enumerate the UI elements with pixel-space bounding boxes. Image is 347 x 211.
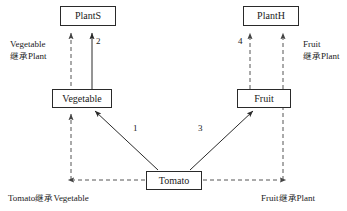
annotation-fruit-bottom-latin2: Plant	[297, 193, 316, 203]
annotation-fruit-right-line2-cjk: 继承	[303, 51, 321, 61]
node-tomato-label: Tomato	[159, 176, 189, 186]
node-fruit-label: Fruit	[254, 94, 273, 104]
annotation-vegetable-line1-text: Vegetable	[10, 39, 45, 49]
annotation-fruit-inherits-plant-bottom: Fruit继承Plant	[261, 192, 315, 204]
node-tomato[interactable]: Tomato	[146, 171, 202, 190]
node-plants[interactable]: PlantS	[60, 6, 116, 26]
annotation-tomato-latin2: Vegetable	[53, 193, 88, 203]
node-planth[interactable]: PlantH	[243, 6, 299, 26]
edge-label-2: 2	[96, 36, 101, 46]
edge-label-1: 1	[133, 123, 138, 133]
edge-label-4: 4	[238, 36, 243, 46]
annotation-vegetable-inherits-plant: Vegetable 继承Plant	[10, 38, 47, 63]
edge-tomato-to-vegetable	[95, 111, 158, 170]
annotation-fruit-bottom-latin1: Fruit	[261, 193, 279, 203]
annotation-tomato-cjk: 继承	[35, 193, 53, 203]
node-vegetable-label: Vegetable	[62, 94, 101, 104]
annotation-fruit-bottom-cjk: 继承	[279, 193, 297, 203]
uml-inheritance-diagram: PlantS PlantH Vegetable Fruit Tomato 1 2…	[0, 0, 347, 211]
edge-tomato-to-fruit	[190, 111, 253, 170]
annotation-fruit-right-line2-latin: Plant	[321, 51, 340, 61]
node-planth-label: PlantH	[257, 11, 285, 21]
node-plants-label: PlantS	[75, 11, 101, 21]
edge-label-2-text: 2	[96, 36, 101, 46]
node-fruit[interactable]: Fruit	[237, 89, 291, 108]
edge-label-4-text: 4	[238, 36, 243, 46]
annotation-tomato-inherits-vegetable: Tomato继承Vegetable	[8, 192, 89, 204]
annotation-vegetable-line2: 继承Plant	[10, 50, 47, 62]
node-vegetable[interactable]: Vegetable	[52, 89, 112, 108]
annotation-fruit-right-line1: Fruit	[303, 38, 340, 50]
annotation-tomato-latin1: Tomato	[8, 193, 35, 203]
annotation-fruit-right-line2: 继承Plant	[303, 50, 340, 62]
annotation-vegetable-line2-latin: Plant	[28, 51, 47, 61]
edge-label-3-text: 3	[198, 123, 203, 133]
annotation-fruit-inherits-plant-right: Fruit 继承Plant	[303, 38, 340, 63]
edge-label-1-text: 1	[133, 123, 138, 133]
annotation-vegetable-line1: Vegetable	[10, 38, 47, 50]
annotation-fruit-right-line1-text: Fruit	[303, 39, 321, 49]
annotation-vegetable-line2-cjk: 继承	[10, 51, 28, 61]
edge-label-3: 3	[198, 123, 203, 133]
